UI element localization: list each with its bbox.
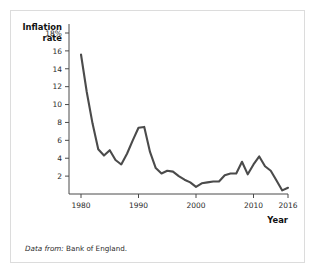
x-tick-label: 2010: [244, 201, 263, 210]
y-axis-title-line1: Inflation: [22, 22, 62, 32]
y-tick-label: 16: [52, 47, 62, 56]
source-note: Data from: Bank of England.: [25, 244, 127, 253]
chart-area: 24681012141618% 19801990200020102016 Inf…: [11, 11, 304, 262]
y-tick-label: 10: [52, 100, 62, 109]
x-tick-label: 1990: [129, 201, 148, 210]
x-axis-tick-labels: 19801990200020102016: [71, 201, 297, 210]
figure-panel: 24681012141618% 19801990200020102016 Inf…: [10, 10, 305, 263]
x-tick-label: 2016: [278, 201, 297, 210]
inflation-line-chart: 24681012141618% 19801990200020102016 Inf…: [11, 11, 304, 262]
y-axis-ticks: [65, 33, 69, 176]
y-tick-label: 2: [57, 172, 62, 181]
y-tick-label: 14: [52, 65, 62, 74]
axes: [69, 24, 288, 194]
x-tick-label: 1980: [71, 201, 90, 210]
y-tick-label: 8: [57, 118, 62, 127]
x-axis-ticks: [81, 194, 288, 198]
x-axis-title: Year: [266, 215, 289, 225]
y-tick-label: 12: [52, 82, 62, 91]
source-note-text: Bank of England.: [66, 244, 127, 253]
source-note-lead: Data from:: [25, 244, 64, 253]
y-axis-tick-labels: 24681012141618%: [45, 29, 62, 181]
y-tick-label: 4: [57, 154, 62, 163]
y-axis-title-line2: rate: [43, 33, 63, 43]
inflation-rate-series: [81, 54, 288, 190]
y-tick-label: 6: [57, 136, 62, 145]
x-tick-label: 2000: [186, 201, 205, 210]
